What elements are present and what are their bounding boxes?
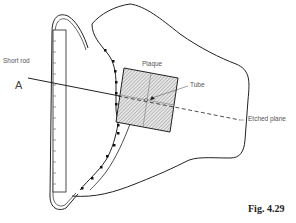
figure-caption: Fig. 4.29 — [248, 204, 284, 214]
inner-parallel — [90, 124, 130, 190]
label-plaque: Plaque — [142, 61, 162, 68]
label-etched-plane: Etched plane — [248, 116, 286, 123]
label-point-a: A — [15, 80, 22, 91]
label-tube: Tube — [190, 82, 205, 89]
ruler — [53, 30, 66, 192]
marker-dots — [81, 49, 120, 190]
diagram-canvas — [0, 0, 296, 223]
label-short-rod: Short rod — [3, 58, 30, 65]
tube-center — [145, 99, 148, 102]
